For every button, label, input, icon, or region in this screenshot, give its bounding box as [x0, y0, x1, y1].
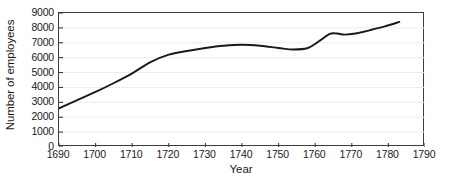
y-tick-label: 6000 [20, 52, 54, 62]
x-tick-label: 1720 [148, 149, 188, 160]
gridlines [59, 13, 425, 147]
x-tick-label: 1770 [331, 149, 371, 160]
y-tick-label: 2000 [20, 111, 54, 121]
x-tick-label: 1730 [184, 149, 224, 160]
y-tick-label: 9000 [20, 7, 54, 17]
x-tick-label: 1700 [75, 149, 115, 160]
y-axis-title: Number of employees [2, 0, 18, 150]
x-axis-tick-marks [59, 143, 425, 147]
x-tick-label: 1750 [258, 149, 298, 160]
y-tick-label: 1000 [20, 126, 54, 136]
plot-area [58, 12, 424, 146]
x-tick-label: 1790 [404, 149, 444, 160]
y-tick-label: 5000 [20, 67, 54, 77]
y-tick-label: 3000 [20, 96, 54, 106]
x-tick-label: 1760 [294, 149, 334, 160]
x-axis-title: Year [58, 163, 424, 175]
plot-svg [59, 13, 425, 147]
x-tick-label: 1740 [221, 149, 261, 160]
x-tick-label: 1780 [367, 149, 407, 160]
y-tick-label: 4000 [20, 81, 54, 91]
x-tick-label: 1710 [111, 149, 151, 160]
y-tick-label: 8000 [20, 22, 54, 32]
data-series-line [59, 22, 399, 108]
y-tick-label: 7000 [20, 37, 54, 47]
line-chart-figure: Number of employees 01000200030004000500… [0, 0, 449, 185]
x-tick-label: 1690 [38, 149, 78, 160]
